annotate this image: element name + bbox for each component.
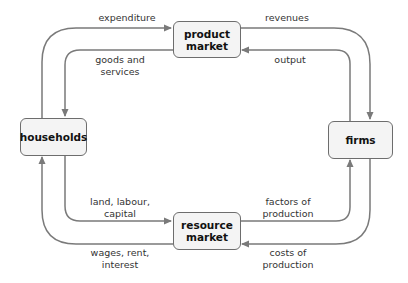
goods-services-label: goods and services (86, 54, 154, 77)
product-market-node: product market (173, 21, 241, 58)
land-labour-capital-label: land, labour, capital (84, 196, 156, 219)
costs-of-production-label: costs of production (256, 247, 320, 270)
output-label: output (265, 54, 315, 66)
firms-label: firms (345, 134, 375, 146)
wages-rent-interest-label: wages, rent, interest (84, 247, 156, 270)
revenues-label: revenues (257, 12, 317, 24)
households-node: households (20, 118, 87, 156)
resource-market-node: resource market (173, 212, 241, 250)
expenditure-label: expenditure (92, 12, 162, 24)
firms-node: firms (328, 121, 393, 159)
factors-of-production-label: factors of production (256, 196, 320, 219)
households-label: households (20, 131, 88, 143)
resource-market-label-1: resource (181, 219, 233, 231)
product-market-label-1: product (184, 28, 230, 40)
resource-market-label-2: market (181, 231, 233, 243)
product-market-label-2: market (184, 40, 230, 52)
